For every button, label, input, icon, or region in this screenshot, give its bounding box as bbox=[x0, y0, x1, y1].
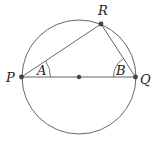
point-p bbox=[19, 75, 24, 80]
point-q bbox=[133, 75, 138, 80]
label-angle-b: B bbox=[115, 63, 126, 78]
label-r: R bbox=[97, 3, 108, 18]
label-angle-a: A bbox=[36, 63, 46, 78]
point-r bbox=[99, 22, 104, 27]
center-point bbox=[77, 75, 81, 79]
side-pr bbox=[22, 24, 102, 77]
label-q: Q bbox=[140, 72, 151, 87]
circle-triangle-diagram: P Q R A B bbox=[0, 0, 162, 143]
label-p: P bbox=[5, 70, 15, 85]
